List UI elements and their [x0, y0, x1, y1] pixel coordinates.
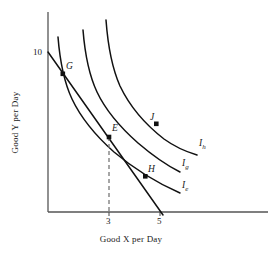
point-marker-j	[154, 122, 159, 127]
indifference-curve-ig	[83, 30, 180, 172]
point-marker-g	[61, 72, 66, 77]
chart-canvas	[0, 0, 270, 253]
x-tick-label-5: 5	[157, 217, 162, 226]
data-points-group	[61, 72, 159, 179]
curve-label-ie: Ie	[182, 181, 188, 193]
point-marker-e	[107, 135, 112, 140]
indifference-curve-ih	[106, 20, 197, 155]
x-tick-label-3: 3	[106, 217, 111, 226]
x-axis-title: Good X per Day	[71, 235, 191, 244]
indifference-curve-chart: Good Y per Day Good X per Day 3 5 10 G E…	[0, 0, 270, 253]
curve-label-ih: Ih	[199, 139, 206, 151]
curve-label-ie-sub: e	[185, 185, 188, 193]
curve-label-ig: Ig	[182, 159, 189, 171]
point-marker-h	[143, 174, 148, 179]
y-tick-label-10: 10	[33, 48, 42, 57]
budget-constraint-line	[48, 52, 163, 215]
curve-label-ih-sub: h	[202, 143, 206, 151]
y-axis-title: Good Y per Day	[11, 87, 20, 159]
point-label-e: E	[112, 124, 118, 134]
indifference-curve-ie	[58, 37, 180, 193]
curve-label-ig-sub: g	[185, 163, 189, 171]
point-label-g: G	[66, 62, 73, 72]
point-label-h: H	[148, 165, 155, 175]
point-label-j: J	[150, 113, 154, 123]
